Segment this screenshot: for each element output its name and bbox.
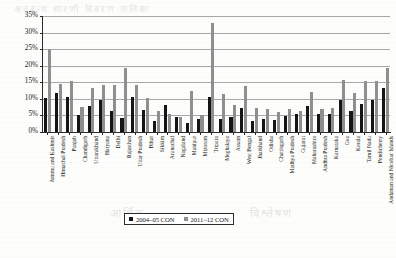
bar-series-0 [284,116,287,132]
x-axis-tickmark [271,132,282,135]
bar-series-1 [59,84,62,132]
x-axis-label-cell: Assam [227,136,238,202]
x-axis-tickmark [282,132,293,135]
x-axis-tickmark [217,132,228,135]
chart-legend: 2004–05 CON2011–12 CON [124,213,234,225]
x-axis-label-cell: Delhi [107,136,118,202]
bar-series-1 [124,68,127,132]
x-axis-label-cell: Bihar [140,136,151,202]
bar-series-0 [295,114,298,132]
bar-series-0 [77,115,80,132]
x-axis-tick-label: Andaman and Nicobar Islands [388,136,394,204]
bars-container [42,16,391,132]
bar-series-1 [179,117,182,132]
x-axis-label-cell: Chattisgarh [271,136,282,202]
x-axis-tickmark [97,132,108,135]
bar-series-0 [186,123,189,132]
bar-series-0 [306,106,309,132]
bar-series-0 [339,100,342,132]
bar-series-0 [262,119,265,132]
bar-group [75,16,86,132]
x-axis-tickmark [129,132,140,135]
legend-swatch [129,217,133,221]
bar-series-1 [320,109,323,132]
x-axis-tickmark [162,132,173,135]
x-axis-label-cell: West Bengal [238,136,249,202]
x-axis-label-cell: Goa [336,136,347,202]
bar-series-1 [48,49,51,132]
bar-group [107,16,118,132]
legend-item: 2004–05 CON [129,216,175,223]
bar-series-0 [153,121,156,132]
x-axis-tickmark [42,132,53,135]
x-axis-label-cell: Madhya Pradesh [282,136,293,202]
x-axis-tickmark [184,132,195,135]
bar-series-1 [277,112,280,132]
x-axis-label-cell: Pondicherry [369,136,380,202]
bar-series-0 [88,106,91,132]
bar-series-0 [197,119,200,132]
bar-series-1 [375,81,378,132]
bar-series-0 [120,118,123,132]
bar-group [271,16,282,132]
legend-swatch [184,217,188,221]
legend-label: 2004–05 CON [136,216,175,223]
bar-series-1 [146,98,149,132]
x-axis-tickmark [260,132,271,135]
x-axis-label-cell: Andaman and Nicobar Islands [380,136,391,202]
bar-series-0 [219,119,222,132]
bar-series-1 [288,109,291,132]
bar-group [97,16,108,132]
bar-series-0 [55,93,58,132]
bar-chart: 0%5%10%15%20%25%30%35% Jammu and Kashmir… [0,0,396,258]
x-axis-tickmark [151,132,162,135]
x-axis-tickmark [53,132,64,135]
bar-series-1 [91,88,94,132]
x-axis-tickmark [304,132,315,135]
bar-group [326,16,337,132]
bar-series-0 [208,97,211,132]
bar-group [53,16,64,132]
bar-series-1 [168,114,171,132]
y-axis: 0%5%10%15%20%25%30%35% [0,16,38,132]
bar-series-1 [102,85,105,132]
bar-group [347,16,358,132]
x-axis-label-cell: Karnataka [326,136,337,202]
bar-group [369,16,380,132]
x-axis-tickmark [75,132,86,135]
x-axis-tickmark [358,132,369,135]
bar-series-0 [328,114,331,132]
bar-group [217,16,228,132]
bar-series-0 [317,114,320,132]
bar-group [358,16,369,132]
bar-series-1 [233,105,236,133]
x-axis-label-cell: Gujarat [293,136,304,202]
bar-series-0 [229,117,232,132]
bar-series-1 [211,23,214,132]
y-axis-tick-label: 20% [4,62,38,69]
x-axis-tickmark [293,132,304,135]
bar-group [336,16,347,132]
y-axis-tick-label: 10% [4,95,38,102]
bar-series-0 [240,108,243,132]
x-axis-tickmark [140,132,151,135]
x-axis-label-cell: Jammu and Kashmir [42,136,53,202]
bar-group [206,16,217,132]
x-axis-label-cell: Manipur [184,136,195,202]
bar-group [129,16,140,132]
chart-page: अनुबन्ध सारणी विवरण तालिका आर्थिक विश्ले… [0,0,396,258]
legend-label: 2011–12 CON [190,216,228,223]
x-axis-label-cell: Uttar Pradesh [129,136,140,202]
x-axis-tickmark [227,132,238,135]
bar-series-0 [142,110,145,132]
bar-group [162,16,173,132]
bar-series-0 [66,97,69,132]
x-axis-label-cell: Mizoram [195,136,206,202]
x-axis-label-cell: Tripura [206,136,217,202]
x-axis-tickmark [369,132,380,135]
x-axis-label-cell: Kerala [347,136,358,202]
x-axis-tickmark [107,132,118,135]
bar-series-0 [175,117,178,132]
bar-series-1 [80,107,83,132]
x-axis-label-cell: Tamil Nadu [358,136,369,202]
